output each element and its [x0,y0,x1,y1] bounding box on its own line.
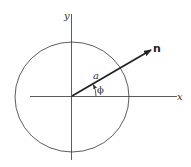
y-axis-label: y [63,10,70,21]
angle-label: ϕ [97,84,104,95]
angle-arc [94,85,97,96]
vector-label: n [153,42,161,55]
diagram-canvas: y x n a ϕ [0,0,191,167]
length-label: a [93,70,99,81]
x-axis-label: x [177,91,183,102]
circle [15,42,129,152]
